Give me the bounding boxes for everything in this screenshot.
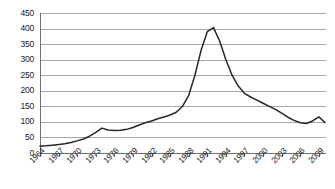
series-1-polyline: [40, 28, 325, 147]
chart-container: 050100150200250300350400450 196419671970…: [0, 0, 335, 189]
line-series: [0, 0, 335, 189]
